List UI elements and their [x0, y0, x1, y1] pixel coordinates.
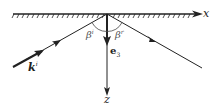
incident-ray-arrowhead	[52, 40, 61, 47]
beta-r-sup: r	[121, 28, 124, 35]
k-incident-label: ki	[28, 60, 38, 74]
beta-i-sup: i	[92, 28, 94, 35]
reflected-ray-arrowhead	[147, 36, 156, 43]
e3-label: e3	[110, 45, 120, 58]
z-axis-label: z	[104, 93, 110, 106]
reflection-diagram: x z βi βr e3 ki	[0, 0, 221, 108]
k-symbol: k	[28, 61, 36, 74]
reflected-angle-label: βr	[115, 28, 124, 40]
x-axis-label: x	[203, 7, 209, 20]
e-sub: 3	[116, 51, 120, 58]
incident-angle-label: βi	[86, 28, 94, 40]
k-sup: i	[36, 60, 38, 67]
